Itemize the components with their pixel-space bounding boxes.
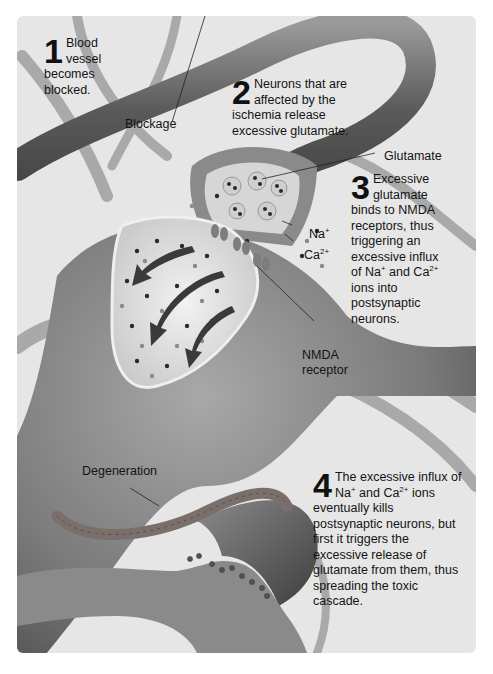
step-1: 1 Blood vessel becomes blocked. bbox=[44, 36, 124, 98]
step-1-number: 1 bbox=[44, 37, 63, 65]
label-na-ion: Na+ bbox=[309, 227, 330, 242]
label-degeneration: Degeneration bbox=[82, 464, 157, 479]
step-4: 4 The excessive influx of Na+ and Ca2+ i… bbox=[313, 470, 463, 610]
label-glutamate: Glutamate bbox=[384, 149, 442, 164]
step-3: 3 Excessive glutamate binds to NMDA rece… bbox=[351, 172, 451, 327]
label-nmda-receptor: NMDA receptor bbox=[302, 348, 348, 378]
step-2-number: 2 bbox=[232, 78, 251, 106]
label-ca-ion: Ca2+ bbox=[304, 248, 329, 263]
step-4-text: The excessive influx of Na+ and Ca2+ ion… bbox=[313, 470, 461, 608]
label-blockage: Blockage bbox=[125, 117, 176, 132]
step-3-number: 3 bbox=[351, 173, 370, 201]
step-2: 2 Neurons that are affected by the ische… bbox=[232, 77, 382, 139]
step-4-number: 4 bbox=[313, 471, 332, 499]
